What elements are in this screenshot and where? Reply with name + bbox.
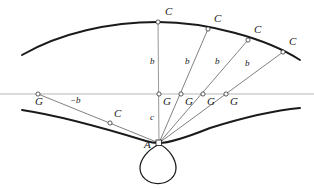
figure-svg <box>0 0 314 188</box>
ray-a-to-c-3 <box>159 52 283 143</box>
node-point-c-2 <box>246 38 250 42</box>
node-point-c-apex <box>156 20 160 24</box>
node-point-g-center <box>157 92 161 96</box>
ray-a-to-g-left <box>38 94 159 143</box>
ray-a-to-c-apex <box>158 22 159 143</box>
ray-a-to-c-1 <box>159 29 208 143</box>
label-point-c-1: C <box>214 13 221 24</box>
figure-root: C C C C C G G G G G A b b b b c −b <box>0 0 314 188</box>
label-point-g-2: G <box>207 96 215 107</box>
label-point-g-1: G <box>185 96 193 107</box>
segment-label-b-0: b <box>150 57 155 66</box>
segment-label-c: c <box>150 113 154 122</box>
segment-label-b-1: b <box>185 57 190 66</box>
label-point-a-cusp: A <box>144 139 151 150</box>
segment-label-minus-b: −b <box>70 96 81 105</box>
node-point-g-2 <box>201 92 205 96</box>
node-point-g-3 <box>224 92 228 96</box>
node-point-c-3 <box>281 50 285 54</box>
segment-label-b-3: b <box>245 59 250 68</box>
node-point-g-1 <box>179 92 183 96</box>
segment-label-b-2: b <box>215 57 220 66</box>
cusp-loop <box>140 145 176 184</box>
label-point-g-center: G <box>163 96 171 107</box>
label-point-c-apex: C <box>165 6 172 17</box>
node-point-a-cusp <box>156 140 161 145</box>
label-point-g-3: G <box>230 96 238 107</box>
ray-a-to-c-2 <box>159 40 248 143</box>
label-point-c-2: C <box>254 24 261 35</box>
label-point-g-left: G <box>35 96 43 107</box>
label-point-c-left: C <box>114 108 121 119</box>
node-point-c-left <box>108 121 112 125</box>
node-point-c-1 <box>206 27 210 31</box>
label-point-c-3: C <box>289 36 296 47</box>
